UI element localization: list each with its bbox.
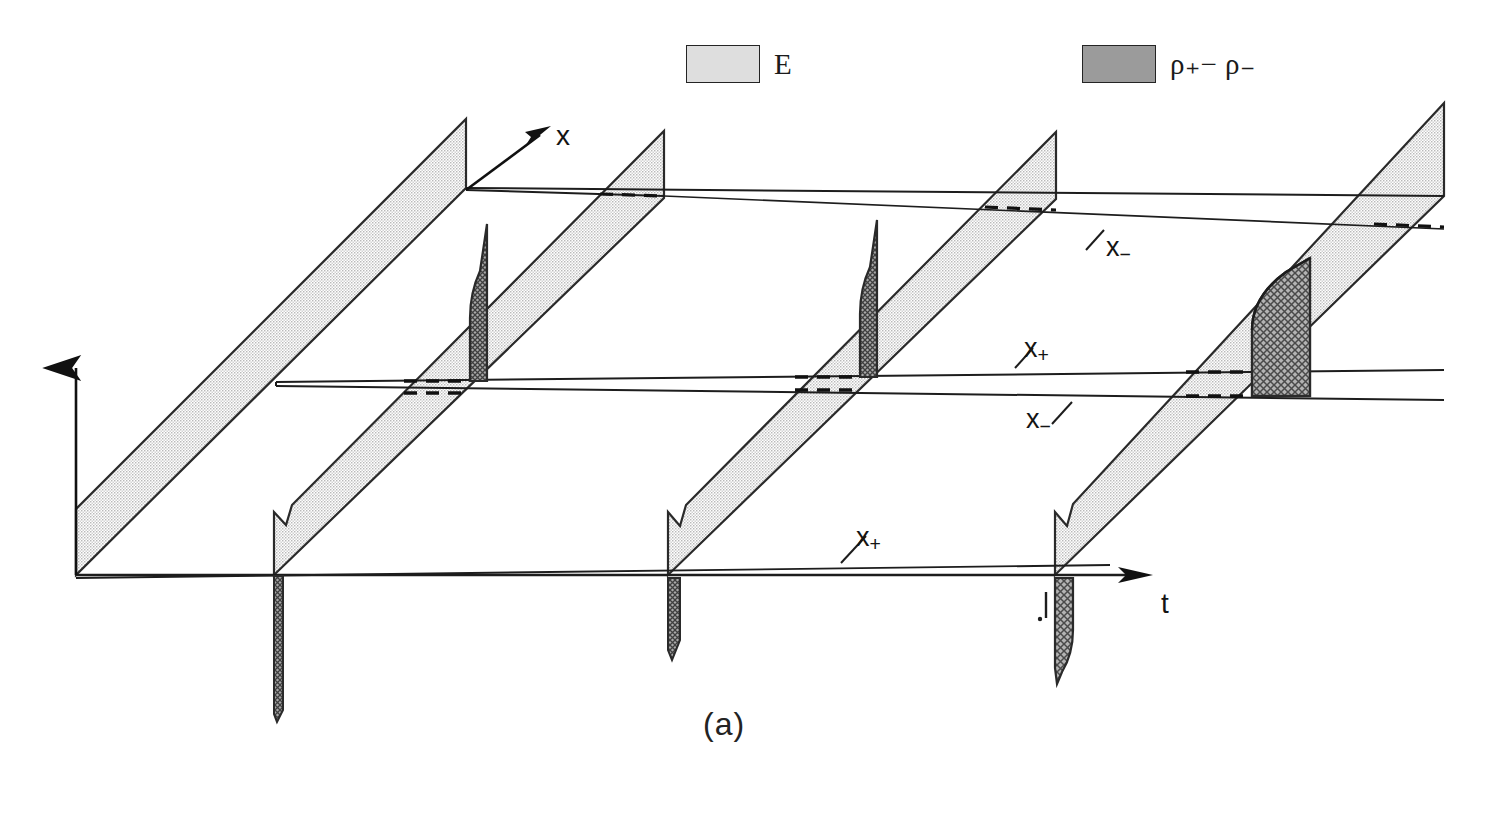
rho-spike-upper-3 (1252, 258, 1310, 396)
figure-caption: (a) (703, 706, 745, 743)
curve-label-x-plus-lower-base: x (856, 522, 870, 552)
diagram-geometry (76, 103, 1444, 722)
rho-spike-lower-3-body (1055, 578, 1073, 684)
rho-spike-lower-1-body (274, 576, 283, 722)
curve-label-x-minus-upper-base: x (1106, 232, 1120, 262)
rho-spike-lower-3 (1055, 578, 1073, 684)
e-sheet-1 (76, 119, 466, 575)
curve-label-x-minus-middle-base: x (1026, 404, 1040, 434)
figure-root: E ρ₊− ρ₋ (0, 0, 1505, 828)
e-sheet-4 (1055, 103, 1444, 575)
curve-label-x-plus-middle-sub: + (1038, 344, 1049, 366)
axis-label-t: t (1161, 588, 1169, 620)
leader-x-minus-middle (1052, 402, 1072, 424)
rho-spike-upper-1 (470, 224, 487, 381)
axis-depth-x (466, 126, 551, 190)
leader-x-minus-upper (1086, 230, 1104, 250)
rho-spike-lower-1 (274, 576, 283, 722)
tick-mark-dot (1038, 617, 1042, 621)
rho-spike-upper-1-body (470, 224, 487, 381)
x-axis-arrowhead (524, 126, 551, 148)
curve-label-x-minus-middle: x− (1026, 404, 1051, 438)
plane-x-plus-bottom (76, 565, 1135, 578)
rho-spike-upper-2-body (860, 220, 877, 377)
curve-label-x-minus-upper-sub: − (1120, 243, 1131, 265)
rho-spike-upper-2 (860, 220, 877, 377)
curve-label-x-plus-middle-base: x (1024, 333, 1038, 363)
e-sheet-4-body (1055, 103, 1444, 575)
rho-spike-lower-2 (668, 578, 680, 660)
spacetime-diagram-canvas (0, 0, 1505, 828)
curve-label-x-plus-lower: x+ (856, 522, 881, 556)
curve-label-x-minus-middle-sub: − (1040, 415, 1051, 437)
curve-label-x-plus-lower-sub: + (870, 533, 881, 555)
dashed-intersect-top-1 (600, 194, 664, 196)
e-sheet-1-body (76, 119, 466, 575)
tick-mark-near-t-axis (1038, 592, 1046, 621)
curve-label-x-plus-middle: x+ (1024, 333, 1049, 367)
rho-spike-upper-3-body (1252, 258, 1310, 396)
curve-label-x-minus-upper: x− (1106, 232, 1131, 266)
axis-label-x: x (556, 120, 570, 152)
rho-spike-lower-2-body (668, 578, 680, 660)
